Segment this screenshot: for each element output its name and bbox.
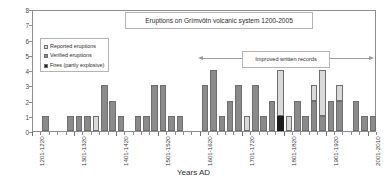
x-tick-mark	[208, 132, 209, 135]
bar-column	[328, 101, 335, 132]
arrow-right-icon	[369, 56, 374, 60]
x-tick-mark	[183, 132, 184, 135]
bar-column	[151, 85, 158, 131]
bar-segment-reported	[286, 116, 293, 131]
improved-records-annotation: Improved written records	[198, 58, 374, 59]
legend-label: Verified eruptions	[50, 53, 92, 58]
bar-column	[302, 116, 309, 131]
x-tick-label: 1801-1820	[290, 136, 297, 166]
bar-segment-verified	[109, 101, 116, 132]
bar-column	[67, 116, 74, 131]
bar-column	[260, 116, 267, 131]
x-tick-mark	[309, 132, 310, 135]
bar-segment-reported	[311, 85, 318, 100]
bar-column	[244, 116, 251, 131]
bar-column	[286, 116, 293, 131]
bar-column	[336, 85, 343, 131]
x-tick-mark	[217, 132, 218, 135]
x-tick-mark	[82, 132, 83, 135]
legend-swatch-icon	[44, 64, 48, 68]
bar-segment-verified	[328, 101, 335, 132]
x-tick-mark	[108, 132, 109, 135]
bar-column	[76, 116, 83, 131]
bar-column	[210, 70, 217, 131]
x-tick-label: 1601-1620	[206, 136, 213, 166]
bar-segment-verified	[135, 116, 142, 131]
bar-segment-fires	[277, 116, 284, 131]
bar-segment-verified	[160, 85, 167, 131]
bar-column	[101, 85, 108, 131]
bar-column	[93, 116, 100, 131]
y-axis-ticks: 012345678	[14, 10, 32, 132]
x-tick-label: 1201-1220	[38, 136, 45, 166]
x-tick-label: 1701-1720	[248, 136, 255, 166]
bar-segment-verified	[67, 116, 74, 131]
bar-column	[168, 116, 175, 131]
bar-column	[319, 70, 326, 131]
bar-segment-reported	[244, 116, 251, 131]
bar-segment-verified	[235, 85, 242, 131]
bar-segment-verified	[202, 85, 209, 131]
bar-segment-verified	[101, 85, 108, 131]
chart-figure: Number of eruptions 012345678 Eruptions …	[0, 0, 387, 188]
annotation-label-box: Improved written records	[242, 51, 330, 68]
legend-item: Reported eruptions	[44, 42, 105, 51]
chart-title: Eruptions on Grímvötn volcanic system 12…	[145, 17, 293, 24]
bar-column	[160, 85, 167, 131]
bar-column	[353, 101, 360, 132]
bar-segment-verified	[260, 116, 267, 131]
bar-column	[143, 116, 150, 131]
x-tick-mark	[49, 132, 50, 135]
x-tick-mark	[133, 132, 134, 135]
x-tick-mark	[175, 132, 176, 135]
bar-segment-verified	[42, 116, 49, 131]
bar-segment-verified	[353, 101, 360, 132]
x-tick-mark	[225, 132, 226, 135]
legend-label: Reported eruptions	[50, 44, 96, 49]
x-tick-label: 1901-1920	[332, 136, 339, 166]
x-tick-label: 1301-1320	[80, 136, 87, 166]
x-tick-mark	[267, 132, 268, 135]
bar-column	[109, 101, 116, 132]
x-tick-mark	[99, 132, 100, 135]
bar-segment-verified	[151, 85, 158, 131]
x-tick-mark	[259, 132, 260, 135]
bar-segment-verified	[361, 116, 368, 131]
legend-swatch-icon	[44, 54, 48, 58]
annotation-label: Improved written records	[255, 56, 317, 62]
bar-segment-reported	[319, 70, 326, 116]
x-tick-label: 1501-1520	[164, 136, 171, 166]
x-tick-mark	[334, 132, 335, 135]
bar-segment-reported	[336, 85, 343, 100]
bar-segment-verified	[227, 101, 234, 132]
x-tick-mark	[141, 132, 142, 135]
bar-column	[235, 85, 242, 131]
bar-column	[202, 85, 209, 131]
bar-column	[252, 85, 259, 131]
legend-item: Fires (partly explosive)	[44, 61, 105, 70]
bar-segment-verified	[336, 101, 343, 132]
x-tick-mark	[233, 132, 234, 135]
bar-column	[370, 116, 377, 131]
bar-segment-verified	[302, 116, 309, 131]
chart-legend: Reported eruptionsVerified eruptionsFire…	[40, 38, 109, 72]
bar-segment-verified	[168, 116, 175, 131]
bar-segment-reported	[93, 116, 100, 131]
bar-segment-reported	[277, 70, 284, 116]
bar-column	[227, 101, 234, 132]
x-tick-mark	[292, 132, 293, 135]
bar-column	[219, 116, 226, 131]
legend-label: Fires (partly explosive)	[50, 63, 104, 68]
bar-segment-verified	[269, 101, 276, 132]
bar-segment-verified	[219, 116, 226, 131]
x-tick-mark	[275, 132, 276, 135]
bar-column	[135, 116, 142, 131]
x-tick-mark	[166, 132, 167, 135]
x-tick-mark	[66, 132, 67, 135]
x-tick-mark	[317, 132, 318, 135]
chart-title-box: Eruptions on Grímvötn volcanic system 12…	[125, 12, 313, 29]
bar-column	[42, 116, 49, 131]
x-tick-mark	[342, 132, 343, 135]
bar-segment-verified	[143, 116, 150, 131]
bar-segment-verified	[76, 116, 83, 131]
